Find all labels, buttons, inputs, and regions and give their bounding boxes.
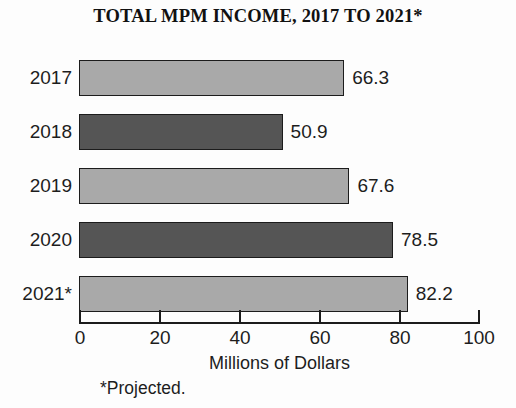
x-axis-tick (319, 310, 321, 323)
x-axis-line (79, 322, 480, 324)
category-label: 2021* (22, 276, 72, 312)
bar-2017[interactable] (79, 60, 344, 96)
category-label: 2019 (30, 168, 72, 204)
bar-2019[interactable] (79, 168, 349, 204)
bar-2020[interactable] (79, 222, 393, 258)
bar-value-label: 50.9 (291, 114, 328, 150)
bar-2018[interactable] (79, 114, 283, 150)
bar-row: 2020 78.5 (0, 222, 516, 258)
x-axis-tick (399, 310, 401, 323)
category-label: 2020 (30, 222, 72, 258)
bar-value-label: 66.3 (352, 60, 389, 96)
x-tick-label: 80 (389, 327, 410, 349)
x-axis-tick (478, 310, 480, 323)
bar-value-label: 67.6 (357, 168, 394, 204)
bar-value-label: 78.5 (401, 222, 438, 258)
bar-row: 2021* 82.2 (0, 276, 516, 312)
bar-2021[interactable] (79, 276, 408, 312)
x-tick-label: 20 (149, 327, 170, 349)
plot-area: 2017 66.3 2018 50.9 2019 67.6 2020 78.5 … (0, 0, 516, 408)
bar-row: 2017 66.3 (0, 60, 516, 96)
x-axis-tick (239, 310, 241, 323)
x-axis-tick (159, 310, 161, 323)
x-tick-label: 40 (229, 327, 250, 349)
x-axis-title: Millions of Dollars (79, 353, 480, 374)
category-label: 2018 (30, 114, 72, 150)
x-tick-label: 100 (463, 327, 495, 349)
x-tick-label: 0 (75, 327, 86, 349)
x-tick-label: 60 (309, 327, 330, 349)
category-label: 2017 (30, 60, 72, 96)
bar-value-label: 82.2 (416, 276, 453, 312)
bar-chart: TOTAL MPM INCOME, 2017 TO 2021* 2017 66.… (0, 0, 516, 408)
chart-footnote: *Projected. (100, 378, 186, 399)
bar-row: 2018 50.9 (0, 114, 516, 150)
x-axis-tick (79, 310, 81, 323)
bar-row: 2019 67.6 (0, 168, 516, 204)
